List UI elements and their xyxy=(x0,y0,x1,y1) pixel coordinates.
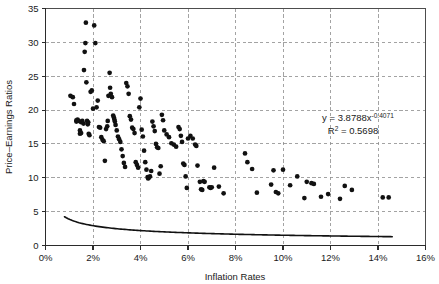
data-point xyxy=(84,20,89,25)
data-point xyxy=(138,96,143,101)
data-point xyxy=(162,128,167,133)
data-point xyxy=(114,128,119,133)
data-point xyxy=(93,41,98,46)
y-tick-label: 10 xyxy=(28,172,39,183)
data-point xyxy=(83,41,88,46)
x-tick-label: 10% xyxy=(273,252,293,263)
y-tick-label: 5 xyxy=(33,206,38,217)
x-tick-label: 12% xyxy=(321,252,341,263)
data-point xyxy=(144,167,149,172)
data-point xyxy=(120,154,125,159)
x-tick-label: 6% xyxy=(181,252,195,263)
equation-exponent: -0.4071 xyxy=(372,112,395,119)
data-point xyxy=(221,191,226,196)
r-value: = 0.5698 xyxy=(338,125,378,136)
data-point xyxy=(94,105,99,110)
x-tick-label: 8% xyxy=(229,252,243,263)
data-point xyxy=(190,136,195,141)
data-point xyxy=(123,165,128,170)
data-point xyxy=(118,140,123,145)
data-point xyxy=(212,165,217,170)
data-point xyxy=(136,165,141,170)
data-point xyxy=(380,195,385,200)
data-point xyxy=(101,139,106,144)
y-tick-labels: 05101520253035 xyxy=(28,3,39,251)
x-axis-title: Inflation Rates xyxy=(205,271,266,282)
trend-line xyxy=(65,217,393,237)
x-tick-labels: 0%2%4%6%8%10%12%14%16% xyxy=(39,252,436,263)
data-point xyxy=(82,49,87,54)
data-point xyxy=(304,180,309,185)
data-point xyxy=(195,163,200,168)
x-tick-label: 2% xyxy=(86,252,100,263)
data-point xyxy=(84,80,89,85)
x-tick-label: 16% xyxy=(416,252,436,263)
data-point xyxy=(180,140,185,145)
data-point xyxy=(151,124,156,129)
data-point xyxy=(179,133,184,138)
trendline-equation: y = 3.8788x-0.4071 xyxy=(322,112,394,123)
data-points xyxy=(68,20,391,201)
data-point xyxy=(350,188,355,193)
data-point xyxy=(119,147,124,152)
data-point xyxy=(137,105,142,110)
data-point xyxy=(342,184,347,189)
data-point xyxy=(217,184,222,189)
data-point xyxy=(158,164,163,169)
data-point xyxy=(108,85,113,90)
data-point xyxy=(182,163,187,168)
data-point xyxy=(152,129,157,134)
x-tick-label: 0% xyxy=(39,252,53,263)
r-squared-label: R2 = 0.5698 xyxy=(328,125,378,136)
data-point xyxy=(269,182,274,187)
data-point xyxy=(82,68,87,73)
data-point xyxy=(95,98,100,103)
data-point xyxy=(142,148,147,153)
data-point xyxy=(149,169,154,174)
data-point xyxy=(174,144,179,149)
data-point xyxy=(148,174,153,179)
data-point xyxy=(245,160,250,165)
data-point xyxy=(302,196,307,201)
data-point xyxy=(79,131,84,136)
data-point xyxy=(177,127,182,132)
x-tick-label: 4% xyxy=(134,252,148,263)
y-axis-title: Price–Earnings Ratios xyxy=(3,80,14,174)
data-point xyxy=(200,188,205,193)
data-point xyxy=(250,167,255,172)
data-point xyxy=(326,192,331,197)
data-point xyxy=(110,95,115,100)
data-point xyxy=(271,168,276,173)
data-point xyxy=(295,174,300,179)
data-point xyxy=(156,146,161,151)
data-point xyxy=(150,119,155,124)
data-point xyxy=(103,159,108,164)
data-point xyxy=(129,117,134,122)
data-point xyxy=(70,95,75,100)
data-point xyxy=(386,195,391,200)
x-tick-label: 14% xyxy=(368,252,388,263)
data-point xyxy=(243,151,248,156)
data-point xyxy=(312,182,317,187)
data-point xyxy=(161,118,166,123)
chart-canvas: 0%2%4%6%8%10%12%14%16% 05101520253035 In… xyxy=(0,0,439,284)
data-point xyxy=(105,119,110,124)
data-point xyxy=(157,171,162,176)
data-point xyxy=(184,186,189,191)
data-point xyxy=(167,135,172,140)
data-point xyxy=(183,174,188,179)
data-point xyxy=(276,191,281,196)
data-point xyxy=(202,180,207,185)
data-point xyxy=(338,196,343,201)
data-point xyxy=(105,124,110,129)
data-point xyxy=(107,70,112,75)
data-point xyxy=(89,88,94,93)
data-point xyxy=(141,134,146,139)
data-point xyxy=(288,183,293,188)
data-point xyxy=(92,23,97,28)
data-point xyxy=(194,144,199,149)
data-point xyxy=(86,120,91,125)
data-point xyxy=(98,125,103,130)
trendline-path xyxy=(65,217,393,237)
data-point xyxy=(139,127,144,132)
